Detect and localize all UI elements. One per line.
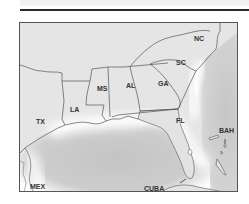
label-ms: MS xyxy=(97,85,108,92)
header-rule xyxy=(20,9,249,11)
page-header-faded xyxy=(20,0,249,6)
lake-okeechobee xyxy=(188,149,192,154)
map-frame: NC SC GA AL MS LA TX FL BAH MEX CUBA xyxy=(19,22,238,192)
southeast-us-map xyxy=(20,23,238,192)
label-sc: SC xyxy=(176,59,186,66)
label-bah: BAH xyxy=(219,127,234,134)
label-nc: NC xyxy=(194,35,204,42)
label-al: AL xyxy=(126,82,135,89)
label-tx: TX xyxy=(36,118,45,125)
label-mex: MEX xyxy=(30,183,45,190)
label-cuba: CUBA xyxy=(144,185,164,192)
label-fl: FL xyxy=(176,117,185,124)
label-la: LA xyxy=(70,106,79,113)
label-ga: GA xyxy=(158,80,169,87)
